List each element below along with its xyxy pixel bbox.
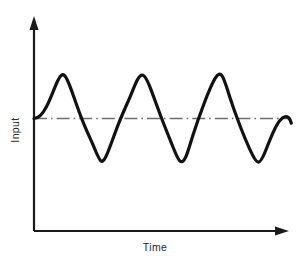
y-axis-label: Input xyxy=(9,117,21,142)
arrow-up-icon xyxy=(30,16,39,30)
plot-canvas: Time Input xyxy=(0,0,302,265)
arrow-right-icon xyxy=(275,227,289,236)
input-waveform-curve xyxy=(34,74,291,162)
x-axis-label: Time xyxy=(143,241,168,253)
sine-wave-figure: Time Input xyxy=(0,0,302,265)
